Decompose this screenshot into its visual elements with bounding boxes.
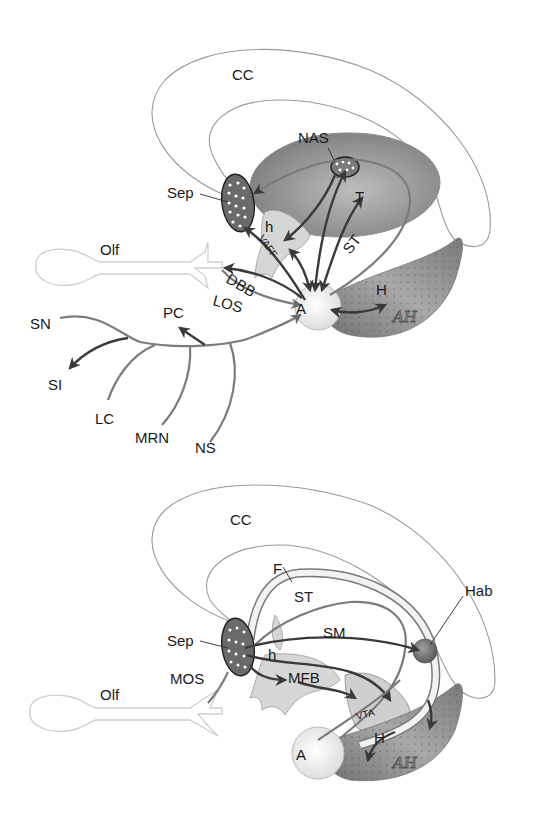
lc-branch — [108, 345, 155, 400]
label-t: T — [355, 188, 364, 205]
ns-branch — [210, 343, 235, 442]
label-f: F — [273, 560, 282, 577]
label-pc: PC — [163, 304, 184, 321]
olfactory-bulb-2 — [30, 690, 222, 736]
label-hab: Hab — [465, 582, 493, 599]
mos-pathway — [208, 672, 228, 703]
label-a-2: A — [296, 746, 306, 763]
mrn-branch — [162, 346, 190, 425]
label-h: H — [376, 281, 387, 298]
label-mfb: MFB — [288, 669, 320, 686]
pc-branch — [180, 328, 205, 345]
label-h-small-2: h — [268, 646, 276, 663]
label-ah: AH — [391, 308, 418, 326]
label-mos: MOS — [170, 670, 204, 687]
label-nas: NAS — [298, 129, 329, 146]
label-sn: SN — [30, 315, 51, 332]
label-sm: SM — [323, 624, 346, 641]
label-sep-2: Sep — [167, 632, 194, 649]
label-mrn: MRN — [135, 429, 169, 446]
label-h-2: H — [374, 729, 385, 746]
label-sep: Sep — [167, 184, 194, 201]
panel-septal-connections: CC F ST Hab SM Sep h MOS MFB Olf VTA A H… — [30, 485, 495, 781]
si-branch — [70, 338, 128, 368]
habenula-region — [413, 639, 437, 663]
label-ns: NS — [195, 439, 216, 456]
label-olf: Olf — [100, 241, 120, 258]
label-olf-2: Olf — [100, 686, 120, 703]
label-a: A — [296, 300, 306, 317]
label-los: LOS — [211, 291, 244, 315]
vaff — [290, 250, 310, 290]
label-ah-2: AH — [391, 754, 418, 772]
panel-amygdala-connections: CC NAS Sep T h VAFF ST Olf DBB LOS A H A… — [30, 49, 490, 456]
label-cc-2: CC — [230, 511, 252, 528]
limbic-pathways-diagram: CC NAS Sep T h VAFF ST Olf DBB LOS A H A… — [0, 0, 551, 822]
label-cc: CC — [232, 66, 254, 83]
label-si: SI — [48, 376, 62, 393]
label-st-2: ST — [294, 588, 313, 605]
label-lc: LC — [95, 410, 114, 427]
olfactory-bulb — [36, 242, 222, 288]
